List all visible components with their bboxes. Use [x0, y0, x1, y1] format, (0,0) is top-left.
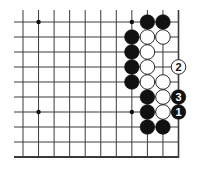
- move-number: 3: [175, 91, 181, 103]
- white-stone: [140, 30, 155, 45]
- white-stone-icon: [140, 30, 155, 45]
- white-stone-icon: [156, 75, 171, 90]
- black-stone: [125, 30, 140, 45]
- black-stone: [140, 15, 155, 30]
- black-stone-icon: [125, 45, 140, 60]
- black-stone-icon: [140, 90, 155, 105]
- white-stone: [156, 75, 171, 90]
- star-point-icon: [130, 20, 134, 24]
- star-point-icon: [36, 20, 40, 24]
- move-number: 1: [175, 106, 181, 118]
- white-stone: [140, 45, 155, 60]
- white-stone-icon: [140, 60, 155, 75]
- black-stone-icon: [125, 30, 140, 45]
- move-number: 2: [175, 61, 181, 73]
- white-stone-icon: [156, 90, 171, 105]
- black-stone-icon: [156, 15, 171, 30]
- black-stone: [140, 105, 155, 120]
- white-stone: [156, 90, 171, 105]
- star-point-icon: [36, 110, 40, 114]
- black-stone-icon: [140, 120, 155, 135]
- white-stone-icon: [140, 75, 155, 90]
- white-stone: 2: [171, 60, 186, 75]
- black-stone-icon: [140, 105, 155, 120]
- star-point-icon: [130, 110, 134, 114]
- black-stone: 3: [171, 90, 186, 105]
- stones-layer: 231: [125, 15, 186, 135]
- white-stone: [140, 60, 155, 75]
- white-stone-icon: [156, 30, 171, 45]
- black-stone-icon: [140, 15, 155, 30]
- black-stone: [156, 15, 171, 30]
- black-stone: [125, 45, 140, 60]
- black-stone: [125, 60, 140, 75]
- black-stone-icon: [156, 120, 171, 135]
- black-stone-icon: [125, 75, 140, 90]
- go-board: 231: [0, 0, 202, 169]
- white-stone-icon: [156, 105, 171, 120]
- white-stone-icon: [140, 45, 155, 60]
- black-stone-icon: [125, 60, 140, 75]
- black-stone: [140, 90, 155, 105]
- black-stone: 1: [171, 105, 186, 120]
- black-stone: [156, 120, 171, 135]
- white-stone: [140, 75, 155, 90]
- black-stone: [140, 120, 155, 135]
- white-stone: [156, 30, 171, 45]
- white-stone: [156, 105, 171, 120]
- black-stone: [125, 75, 140, 90]
